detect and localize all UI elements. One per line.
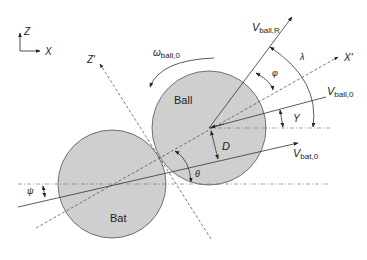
v-bat-0-label: Vbat,0 — [293, 147, 319, 161]
gamma-label: Y — [293, 113, 301, 124]
lambda-label: λ — [299, 52, 304, 62]
omega-label: ωball,0 — [153, 47, 180, 60]
bat-label: Bat — [110, 212, 127, 224]
v-ball-0-label: Vball,0 — [327, 85, 354, 99]
z-axis-label: Z — [23, 26, 31, 37]
psi-label: ψ — [27, 186, 34, 196]
gamma-arrow — [280, 110, 283, 127]
phi-label: φ — [272, 68, 278, 78]
collision-diagram: Z X Z' X' Ball Bat Vball,R Vball,0 Vbat,… — [0, 0, 367, 260]
theta-label: θ — [195, 169, 200, 179]
z-prime-label: Z' — [86, 54, 96, 65]
x-axis-label: X — [44, 46, 52, 57]
ball-label: Ball — [174, 94, 192, 106]
d-label: D — [222, 140, 230, 152]
v-ball-r-label: Vball,R — [252, 21, 280, 35]
lambda-arc — [270, 47, 314, 127]
psi-arrow — [43, 186, 45, 197]
x-prime-label: X' — [343, 52, 354, 63]
phi-arc — [256, 73, 273, 90]
